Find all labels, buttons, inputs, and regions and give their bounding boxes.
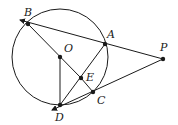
segment-bd — [28, 24, 81, 78]
label-o: O — [64, 42, 73, 55]
point-d — [58, 103, 62, 107]
label-a: A — [106, 28, 115, 41]
label-p: P — [159, 41, 168, 54]
point-e — [79, 76, 83, 80]
point-c — [91, 90, 95, 94]
point-p — [161, 57, 165, 61]
label-e: E — [85, 71, 94, 84]
point-o — [58, 55, 62, 59]
point-b — [26, 22, 30, 26]
label-b: B — [23, 6, 32, 19]
geometry-diagram: B O A P E C D — [0, 0, 178, 125]
label-c: C — [97, 94, 106, 107]
point-a — [103, 42, 107, 46]
secant-pb — [20, 20, 163, 59]
label-d: D — [54, 111, 64, 124]
